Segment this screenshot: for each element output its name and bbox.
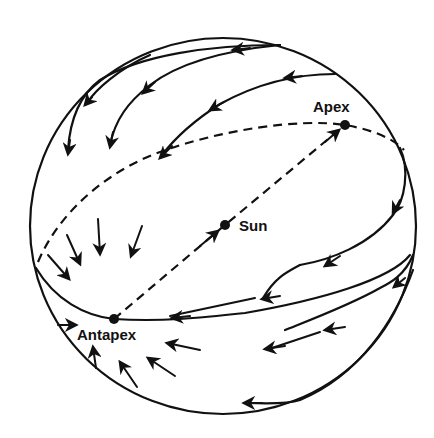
flow-arc-2-head-a [143,82,155,93]
flow-arc-1b-head [85,97,92,105]
celestial-sphere-diagram: Apex Sun Antapex [0,0,434,438]
flow-arc-4b [263,265,300,298]
antapex-label: Antapex [77,326,137,343]
flow-arc-1 [68,45,280,150]
flow-arc-2 [110,45,280,145]
flow-arc-5 [285,255,413,330]
converge-arrow-7 [148,358,175,376]
equator-back-dashed [38,123,404,262]
solar-motion-axis [114,125,345,319]
apex-point [340,120,350,130]
equator-front-solid [36,255,410,320]
flow-arc-3-head-b [210,102,224,110]
converge-arrow-4 [131,226,142,256]
sun-point [220,220,230,230]
converge-arrow-8 [120,362,137,387]
converge-arrow-2 [67,235,80,264]
converge-arrow-1 [48,255,69,279]
converge-arrow-6 [167,343,200,350]
flow-arc-4 [300,148,405,265]
axis-arrow-to-apex [325,130,339,142]
apex-label: Apex [313,98,350,115]
flow-arc-5c [272,332,320,348]
antapex-point [109,314,119,324]
axis-arrow-to-sun [200,231,218,246]
converge-arrow-3 [98,219,100,254]
flow-arc-6 [245,270,413,403]
sun-label: Sun [239,217,267,234]
flow-arc-5-head-b [325,327,345,330]
